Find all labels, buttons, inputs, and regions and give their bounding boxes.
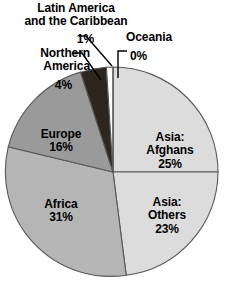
slice-label-asia-afghans-line2: Afghans — [132, 144, 208, 157]
slice-label-oceania: Oceania — [126, 31, 196, 44]
slice-label-asia-afghans: Asia: Afghans 25% — [132, 131, 208, 171]
slice-label-asia-others-line2: Others — [132, 209, 202, 222]
slice-label-asia-others-line1: Asia: — [153, 195, 182, 209]
slice-label-latin-america-line1: Latin America — [37, 1, 115, 15]
slice-value-oceania: 0% — [130, 50, 170, 63]
slice-label-latin-america: Latin America and the Caribbean — [8, 2, 144, 29]
slice-label-latin-america-line2: and the Caribbean — [25, 14, 128, 28]
slice-label-northern-america-line2: America — [43, 59, 90, 73]
slice-value-latin-america: 1% — [52, 33, 94, 46]
slice-label-africa-name: Africa — [44, 197, 77, 211]
slice-value-northern-america: 4% — [2, 79, 72, 92]
pie-slices — [5, 67, 218, 276]
slice-label-northern-america-line1: Northern — [40, 46, 90, 60]
slice-label-asia-afghans-line1: Asia: — [156, 130, 185, 144]
slice-label-europe: Europe 16% — [24, 128, 98, 155]
slice-label-asia-others: Asia: Others 23% — [132, 196, 202, 236]
slice-label-northern-america: Northern America — [2, 47, 90, 74]
slice-value-asia-others: 23% — [132, 223, 202, 236]
slice-value-africa: 31% — [24, 211, 98, 224]
slice-label-africa: Africa 31% — [24, 198, 98, 225]
slice-label-europe-name: Europe — [41, 127, 82, 141]
pie-chart: Latin America and the Caribbean 1% Ocean… — [0, 0, 228, 282]
slice-value-asia-afghans: 25% — [132, 158, 208, 171]
slice-value-europe: 16% — [24, 141, 98, 154]
